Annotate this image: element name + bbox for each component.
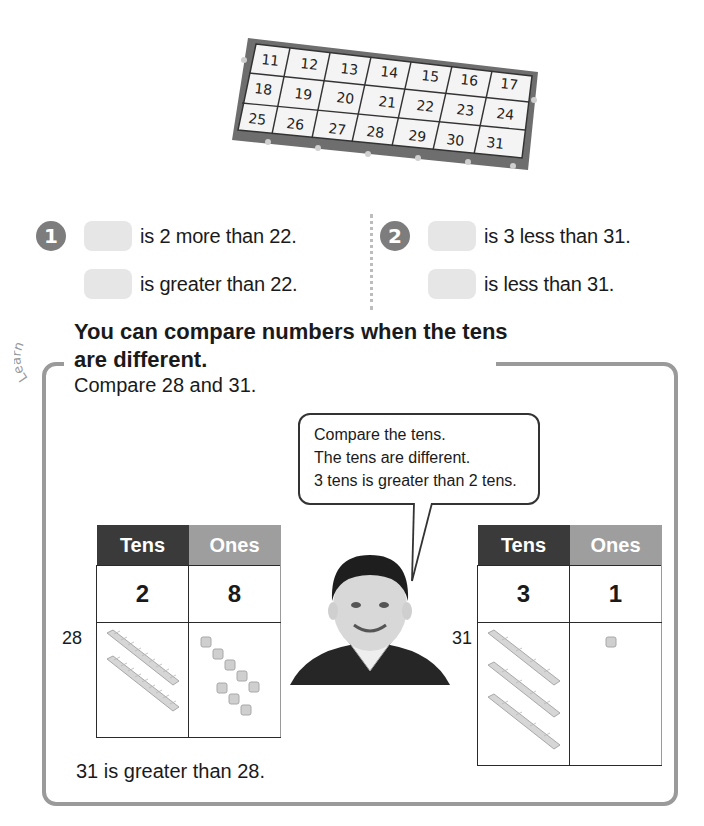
bubble-line-1: Compare the tens.: [314, 423, 524, 446]
ones-cubes-model: [570, 623, 662, 766]
answer-blank[interactable]: [428, 221, 476, 251]
calendar-mat: 11 12 13 14 15 16 17 18 19 20 21 22 23 2…: [228, 30, 554, 180]
learn-title: You can compare numbers when the tens ar…: [74, 318, 508, 374]
svg-text:27: 27: [328, 120, 347, 138]
svg-text:14: 14: [380, 63, 399, 81]
ones-cubes-model: [189, 623, 281, 738]
compare-prompt: Compare 28 and 31.: [74, 374, 256, 397]
exercise-2: 2 is 3 less than 31. is less than 31.: [368, 218, 631, 314]
exercise-text: is less than 31.: [484, 273, 614, 296]
svg-text:11: 11: [261, 51, 280, 69]
svg-text:12: 12: [300, 55, 319, 73]
svg-text:20: 20: [336, 89, 355, 107]
learn-title-line-2: are different.: [74, 346, 508, 374]
svg-text:29: 29: [408, 127, 427, 145]
boy-illustration: [286, 545, 454, 685]
svg-text:28: 28: [366, 123, 385, 141]
svg-text:Learn: Learn: [14, 340, 30, 385]
bubble-line-2: The tens are different.: [314, 446, 524, 469]
svg-text:25: 25: [248, 110, 267, 128]
svg-text:31: 31: [486, 134, 505, 152]
svg-text:19: 19: [294, 85, 313, 103]
tens-header: Tens: [97, 525, 189, 566]
svg-text:15: 15: [421, 67, 440, 85]
ten-rod-icon: [478, 623, 568, 761]
tens-digit: 2: [97, 566, 189, 623]
exercise-number-badge: 2: [380, 221, 410, 251]
svg-text:24: 24: [496, 105, 515, 123]
svg-text:26: 26: [286, 115, 305, 133]
speech-bubble: Compare the tens. The tens are different…: [298, 413, 540, 505]
number-label-31: 31: [452, 628, 472, 649]
answer-blank[interactable]: [84, 269, 132, 299]
ones-header: Ones: [570, 525, 662, 566]
ones-digit: 1: [570, 566, 662, 623]
ten-rod-icon: [97, 623, 187, 733]
exercise-number-badge: 1: [36, 221, 66, 251]
number-label-28: 28: [62, 628, 82, 649]
bubble-line-3: 3 tens is greater than 2 tens.: [314, 469, 524, 492]
place-value-table-31: Tens Ones 3 1: [477, 525, 662, 766]
tens-rods-model: [97, 623, 189, 738]
svg-text:22: 22: [416, 97, 435, 115]
svg-text:21: 21: [378, 93, 397, 111]
svg-text:17: 17: [500, 75, 519, 93]
ones-header: Ones: [189, 525, 281, 566]
answer-blank[interactable]: [84, 221, 132, 251]
svg-text:23: 23: [456, 101, 475, 119]
learn-tag-text: Learn: [14, 340, 30, 385]
exercise-1: 1 is 2 more than 22. is greater than 22.: [36, 218, 297, 314]
svg-text:16: 16: [460, 71, 479, 89]
unit-cube-icon: [570, 623, 660, 761]
svg-text:30: 30: [446, 131, 465, 149]
tens-header: Tens: [478, 525, 570, 566]
conclusion-text: 31 is greater than 28.: [76, 760, 265, 783]
ones-digit: 8: [189, 566, 281, 623]
exercise-text: is 3 less than 31.: [484, 225, 631, 248]
svg-text:13: 13: [340, 60, 359, 78]
tens-rods-model: [478, 623, 570, 766]
unit-cube-icon: [189, 623, 279, 733]
learn-title-line-1: You can compare numbers when the tens: [74, 318, 508, 346]
svg-text:18: 18: [254, 80, 273, 98]
exercise-text: is greater than 22.: [140, 273, 297, 296]
tens-digit: 3: [478, 566, 570, 623]
answer-blank[interactable]: [428, 269, 476, 299]
place-value-table-28: Tens Ones 2 8: [96, 525, 281, 738]
exercise-text: is 2 more than 22.: [140, 225, 297, 248]
